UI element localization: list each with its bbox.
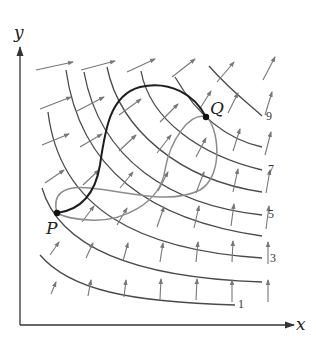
- level-label-7: 7: [268, 163, 274, 175]
- level-label-5: 5: [268, 208, 274, 220]
- level-label-1: 1: [238, 298, 244, 310]
- vector-field-diagram: y x P Q 9 7 5 3 1: [0, 0, 316, 351]
- point-p: [54, 210, 60, 216]
- point-p-label: P: [46, 220, 57, 237]
- level-curve-6: [107, 67, 262, 192]
- point-q-label: Q: [210, 100, 224, 117]
- level-curve-1: [40, 255, 235, 305]
- level-curves: [40, 66, 262, 305]
- point-q: [203, 114, 209, 120]
- level-label-9: 9: [266, 110, 272, 122]
- level-label-3: 3: [270, 252, 276, 264]
- axes: [20, 47, 294, 325]
- y-axis-label: y: [14, 24, 24, 41]
- x-axis-label: x: [296, 316, 306, 333]
